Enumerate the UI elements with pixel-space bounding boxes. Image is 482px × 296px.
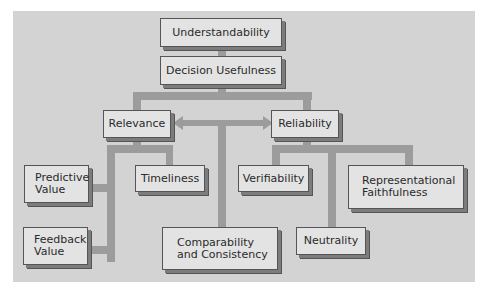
connector-to-verifiability: [272, 145, 280, 165]
node-label: Reliability: [278, 118, 332, 130]
connector-relevance-vertical: [107, 145, 115, 262]
connector-to-comparability: [218, 123, 226, 229]
node-label: Understandability: [172, 27, 270, 39]
node-label: Decision Usefulness: [166, 65, 276, 77]
connector-to-timeliness: [166, 145, 173, 165]
connector-to-predictive: [92, 184, 112, 192]
node-comparability: Comparability and Consistency: [162, 227, 278, 270]
node-label-line2: Value: [35, 184, 88, 196]
node-predictive-value: Predictive Value: [24, 165, 89, 203]
node-label-line1: Comparability: [177, 237, 277, 249]
node-understandability: Understandability: [160, 18, 282, 47]
node-label-line2: and Consistency: [177, 249, 277, 261]
node-label-line2: Value: [34, 246, 87, 258]
node-label: Relevance: [109, 118, 166, 130]
node-decision-usefulness: Decision Usefulness: [160, 56, 282, 85]
connector-reliability-branch: [272, 145, 413, 153]
connector-decision-branch: [133, 92, 312, 100]
node-label: Neutrality: [304, 235, 358, 247]
connector-to-neutrality: [328, 145, 336, 229]
connector-to-representational: [405, 145, 413, 165]
node-label-line2: Faithfulness: [362, 187, 463, 199]
connector-to-reliability: [303, 92, 311, 110]
node-neutrality: Neutrality: [296, 227, 366, 255]
node-feedback-value: Feedback Value: [23, 227, 88, 265]
connector-to-feedback: [92, 246, 112, 254]
node-representational-faithfulness: Representational Faithfulness: [348, 165, 464, 209]
node-reliability: Reliability: [271, 110, 339, 138]
connector-relevance-branch: [107, 145, 173, 153]
connector-to-relevance: [133, 92, 141, 110]
node-verifiability: Verifiability: [238, 165, 309, 192]
node-label: Verifiability: [243, 173, 305, 185]
node-timeliness: Timeliness: [135, 165, 205, 192]
node-label: Timeliness: [141, 173, 199, 185]
node-relevance: Relevance: [103, 110, 171, 138]
